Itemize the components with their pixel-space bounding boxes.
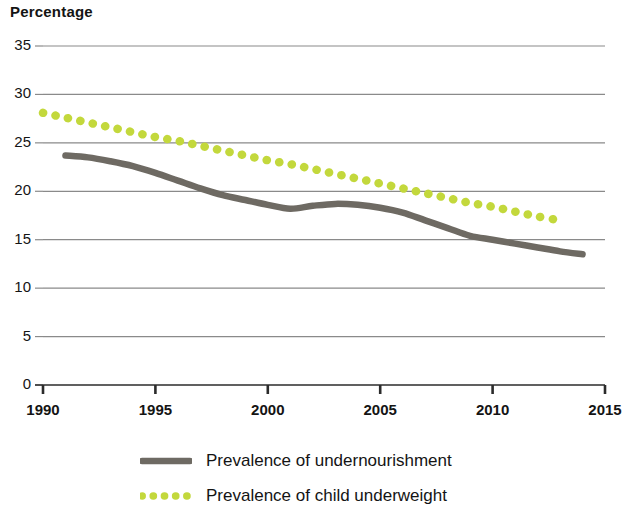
y-axis-tick-label: 30 [0,84,31,101]
chart-svg [0,0,619,430]
x-axis-tick-label: 1990 [8,401,78,418]
y-axis-tick-label: 35 [0,36,31,53]
x-axis-tick-label: 1995 [120,401,190,418]
chart-legend: Prevalence of undernourishmentPrevalence… [0,443,619,513]
y-axis-tick-label: 0 [0,375,31,392]
gridlines [43,46,605,337]
data-series-group [43,113,583,254]
dotted-line-icon [140,487,192,505]
legend-label: Prevalence of undernourishment [206,451,452,471]
y-axis-tick-label: 5 [0,327,31,344]
y-axis-tick-label: 15 [0,230,31,247]
x-axis-tick-label: 2010 [458,401,528,418]
legend-label: Prevalence of child underweight [206,486,447,506]
plot-area: 05101520253035 199019952000200520102015 [0,0,619,430]
y-axis-tick-label: 10 [0,278,31,295]
x-axis-tick-label: 2015 [570,401,626,418]
x-axis-tick-label: 2005 [345,401,415,418]
y-axis-tick-label: 20 [0,181,31,198]
y-axis-tick-label: 25 [0,133,31,150]
x-axis-tick-label: 2000 [233,401,303,418]
solid-line-icon [140,452,192,470]
legend-item[interactable]: Prevalence of child underweight [0,478,619,513]
x-axis-ticks [43,385,605,394]
legend-item[interactable]: Prevalence of undernourishment [0,443,619,478]
y-axis-ticks [35,46,43,385]
